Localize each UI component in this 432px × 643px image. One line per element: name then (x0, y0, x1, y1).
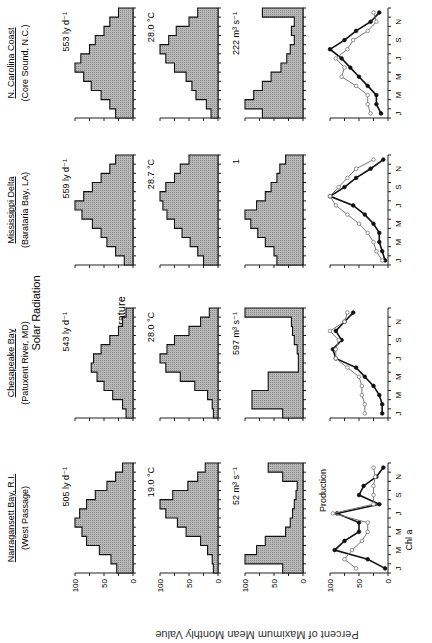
histogram-bars (160, 308, 218, 418)
month-tick-label: N (394, 319, 403, 325)
max-value-label: 222 m³ s⁻¹ (231, 12, 241, 55)
month-tick-label: J (394, 258, 403, 262)
histogram-bars (75, 155, 133, 265)
site-name: N. Carolina Coast (6, 27, 16, 99)
max-value-label: 28.7 °C (146, 159, 156, 190)
histogram-bars (75, 8, 133, 118)
figure-canvas: Narragansett Bay, R.I.(West Passage)Ches… (0, 0, 432, 643)
y-tick-label: 50 (185, 578, 194, 587)
month-tick-label: N (394, 19, 403, 25)
month-tick-label: S (394, 492, 403, 497)
production-line (330, 13, 381, 114)
y-tick-label: 50 (355, 578, 364, 587)
histogram-bars (160, 155, 218, 265)
max-value-label: 505 ly d⁻¹ (61, 467, 71, 507)
max-value-label: 597 m³ s⁻¹ (231, 312, 241, 355)
y-tick-label: 0 (214, 578, 223, 583)
row-label: Solar Radiation (30, 275, 42, 350)
month-tick-label: M (394, 238, 403, 245)
max-value-label: 559 ly d⁻¹ (61, 159, 71, 199)
month-tick-label: J (394, 56, 403, 60)
max-value-label: 19.0 °C (146, 467, 156, 498)
rotated-figure: Percent of Maximum Mean Monthly Value Na… (0, 0, 432, 643)
y-tick-label: 100 (326, 578, 335, 592)
production-annotation: Production (318, 469, 328, 512)
y-tick-label: 100 (71, 578, 80, 592)
month-tick-label: N (394, 166, 403, 172)
month-tick-label: J (394, 566, 403, 570)
chla-line (336, 13, 377, 114)
y-tick-label: 100 (156, 578, 165, 592)
month-tick-label: M (394, 391, 403, 398)
histogram-bars (160, 463, 218, 573)
month-tick-label: M (394, 91, 403, 98)
chla-line (330, 160, 382, 261)
site-location: (Patuxent River, MD) (20, 321, 30, 405)
histogram-bars (91, 308, 133, 418)
site-location: (Barataria Bay, LA) (20, 172, 30, 248)
max-value-label: 553 ly d⁻¹ (61, 12, 71, 52)
max-value-label: 28.0 °C (146, 12, 156, 43)
histogram-bars (245, 463, 303, 573)
month-tick-label: J (394, 356, 403, 360)
month-tick-label: J (394, 111, 403, 115)
site-name: Chesapeake Bay (6, 328, 16, 397)
histogram-bars (160, 8, 218, 118)
month-tick-label: S (394, 337, 403, 342)
max-value-label: 543 ly d⁻¹ (61, 312, 71, 352)
production-line (333, 313, 382, 414)
month-tick-label: J (394, 511, 403, 515)
month-tick-label: M (394, 528, 403, 535)
month-tick-label: J (394, 203, 403, 207)
y-tick-label: 50 (100, 578, 109, 587)
site-name: Narragansett Bay, R.I. (6, 474, 16, 562)
y-tick-label: 0 (299, 578, 308, 583)
y-tick-label: 50 (270, 578, 279, 587)
month-tick-label: J (394, 411, 403, 415)
month-tick-label: M (394, 73, 403, 80)
site-location: (West Passage) (20, 486, 30, 550)
histogram-bars (75, 463, 133, 573)
month-tick-label: M (394, 220, 403, 227)
month-tick-label: M (394, 546, 403, 553)
y-tick-label: 0 (384, 578, 393, 583)
histogram-bars (245, 8, 303, 118)
y-tick-label: 100 (241, 578, 250, 592)
site-location: (Core Sound, N.C.) (20, 24, 30, 101)
month-tick-label: S (394, 184, 403, 189)
month-tick-label: S (394, 37, 403, 42)
max-value-label: 52 m³ s⁻¹ (231, 467, 241, 505)
histogram-bars (245, 155, 303, 265)
histogram-bars (245, 308, 303, 418)
month-tick-label: M (394, 373, 403, 380)
production-line (330, 160, 385, 261)
max-value-label: 28.0 °C (146, 312, 156, 343)
chla-annotation: Chl a (404, 529, 414, 550)
production-line (335, 468, 385, 569)
y-tick-label: 0 (129, 578, 138, 583)
month-tick-label: N (394, 474, 403, 480)
site-name: Mississippi Delta (6, 176, 16, 243)
max-value-label: 1 (231, 159, 241, 164)
